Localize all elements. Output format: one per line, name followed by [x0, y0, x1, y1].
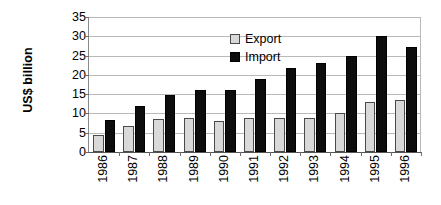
y-tick-mark: [85, 113, 89, 114]
y-tick-mark: [85, 36, 89, 37]
x-tick-label-wrap: 1987: [126, 153, 140, 203]
x-tick-label: 1992: [277, 155, 291, 183]
x-tick-label: 1989: [187, 155, 201, 183]
legend-swatch-import-icon: [230, 52, 240, 62]
y-tick-mark: [85, 17, 89, 18]
chart-legend: Export Import: [230, 31, 294, 67]
bar-import-1995: [376, 36, 387, 152]
x-tick-label: 1990: [217, 155, 231, 183]
y-tick-label: 10: [56, 107, 86, 119]
y-tick-label: 15: [56, 88, 86, 100]
y-tick-label: 5: [56, 127, 86, 139]
bar-import-1986: [105, 120, 116, 152]
x-tick-label: 1986: [96, 155, 110, 183]
y-tick-mark: [85, 56, 89, 57]
bar-group-1989: [180, 17, 210, 152]
bar-import-1988: [165, 95, 176, 152]
x-tick-label-wrap: 1988: [156, 153, 170, 203]
x-axis-tick-labels: 1986198719881989199019911992199319941995…: [88, 153, 420, 205]
bar-export-1990: [214, 121, 225, 152]
x-tick-label-wrap: 1986: [96, 153, 110, 203]
bar-import-1991: [255, 79, 266, 152]
bar-export-1988: [153, 119, 164, 152]
y-tick-label: 20: [56, 69, 86, 81]
y-tick-label: 25: [56, 50, 86, 62]
bar-export-1992: [274, 118, 285, 152]
bar-import-1992: [286, 68, 297, 152]
y-tick-mark: [85, 133, 89, 134]
y-tick-label: 0: [56, 146, 86, 158]
x-tick-label-wrap: 1991: [247, 153, 261, 203]
legend-label-import: Import: [245, 51, 280, 64]
bar-import-1996: [406, 47, 417, 152]
x-tick-label: 1988: [156, 155, 170, 183]
bar-group-1996: [391, 17, 421, 152]
bar-group-1988: [149, 17, 179, 152]
y-tick-label: 35: [56, 11, 86, 23]
legend-item-export: Export: [230, 31, 294, 47]
bar-group-1993: [300, 17, 330, 152]
x-tick-label-wrap: 1996: [398, 153, 412, 203]
bar-import-1987: [135, 106, 146, 152]
bar-import-1990: [225, 90, 236, 152]
x-tick-label-wrap: 1989: [187, 153, 201, 203]
x-tick-label: 1996: [398, 155, 412, 183]
bar-import-1993: [316, 63, 327, 152]
bar-group-1995: [361, 17, 391, 152]
x-tick-label: 1993: [307, 155, 321, 183]
bar-export-1986: [93, 135, 104, 152]
y-tick-mark: [85, 94, 89, 95]
y-tick-label: 30: [56, 30, 86, 42]
plot-area: Export Import: [88, 17, 421, 153]
bar-export-1989: [184, 118, 195, 152]
bar-export-1995: [365, 102, 376, 152]
bar-export-1994: [335, 113, 346, 152]
bar-group-1987: [119, 17, 149, 152]
y-axis-title: US$ billion: [0, 0, 56, 160]
bar-group-1994: [330, 17, 360, 152]
legend-swatch-export-icon: [230, 34, 240, 44]
bar-import-1994: [346, 56, 357, 152]
bar-chart-figure: US$ billion 35302520151050 Export Import…: [0, 0, 441, 205]
x-tick-label: 1987: [126, 155, 140, 183]
x-tick-label: 1994: [338, 155, 352, 183]
x-tick-mark: [421, 152, 422, 156]
bar-export-1991: [244, 118, 255, 152]
legend-item-import: Import: [230, 49, 294, 65]
y-axis-title-label: US$ billion: [21, 47, 35, 113]
x-tick-label-wrap: 1993: [307, 153, 321, 203]
bar-export-1987: [123, 126, 134, 152]
x-tick-label-wrap: 1990: [217, 153, 231, 203]
y-axis-tick-labels: 35302520151050: [56, 11, 86, 158]
y-tick-mark: [85, 75, 89, 76]
x-tick-label: 1991: [247, 155, 261, 183]
x-tick-label: 1995: [368, 155, 382, 183]
bar-group-1986: [89, 17, 119, 152]
x-tick-label-wrap: 1994: [338, 153, 352, 203]
bar-export-1993: [304, 118, 315, 152]
x-tick-label-wrap: 1992: [277, 153, 291, 203]
bar-import-1989: [195, 90, 206, 152]
x-tick-label-wrap: 1995: [368, 153, 382, 203]
bar-export-1996: [395, 100, 406, 152]
legend-label-export: Export: [245, 33, 281, 46]
